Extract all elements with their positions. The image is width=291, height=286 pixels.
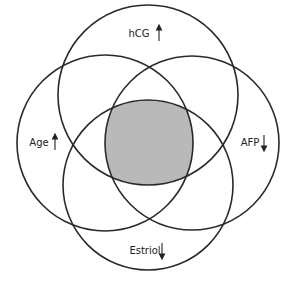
up-arrow-icon	[157, 25, 162, 41]
up-arrow-icon	[53, 134, 58, 150]
down-arrow-icon	[262, 135, 267, 151]
venn-diagram: hCG Age AFP Estriol	[0, 0, 291, 286]
age-label: Age	[29, 137, 48, 148]
hcg-label-group: hCG	[128, 25, 161, 41]
afp-label: AFP	[241, 137, 260, 148]
estriol-label-group: Estriol	[129, 243, 164, 259]
hcg-label: hCG	[128, 28, 149, 39]
estriol-label: Estriol	[129, 245, 160, 256]
afp-label-group: AFP	[241, 135, 267, 151]
age-label-group: Age	[29, 134, 57, 150]
